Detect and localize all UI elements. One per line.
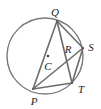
point-t-dot — [71, 82, 73, 84]
point-s-dot — [82, 47, 84, 49]
geometry-diagram: Q S T P R C — [0, 0, 101, 109]
point-q-dot — [56, 20, 58, 22]
label-q: Q — [51, 7, 59, 18]
label-s: S — [88, 42, 94, 53]
point-p-dot — [32, 88, 34, 90]
label-t: T — [78, 84, 84, 95]
center-dot — [47, 55, 50, 58]
label-p: P — [31, 96, 38, 107]
label-c: C — [44, 61, 51, 72]
label-r: R — [65, 44, 72, 55]
